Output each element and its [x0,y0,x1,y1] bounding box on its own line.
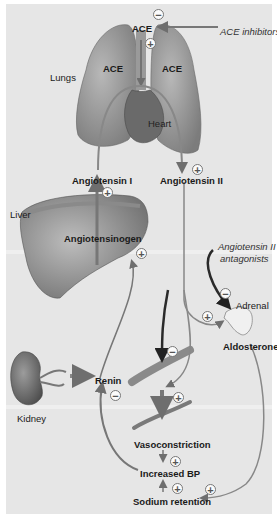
adrenal-label: Adrenal [236,301,269,311]
plus-sign-increased-bp-bottom: + [172,483,183,494]
plus-sign-renin-liver: + [136,248,147,259]
heart-label: Heart [148,119,171,129]
ace-label-left: ACE [103,64,123,74]
angiotensin-2-label: Angiotensin II [160,176,223,186]
minus-sign-renin: − [110,390,121,401]
renin-label: Renin [95,376,121,386]
kidney-label: Kidney [17,414,46,424]
plus-sign-ace: + [145,38,156,49]
minus-sign-vessel: − [167,346,178,357]
ace-inhibitors-label: ACE inhibitors [220,27,277,37]
minus-sign-ace-inhibitor: − [153,9,164,20]
plus-sign-vasoconstriction: + [173,392,184,403]
plus-sign-angiotensin-1: + [102,187,113,198]
plus-sign-adrenal: + [202,311,213,322]
liver-label: Liver [10,210,31,220]
angiotensinogen-label: Angiotensinogen [64,234,142,244]
ace-label-right: ACE [162,64,182,74]
plus-sign-increased-bp-top: + [170,456,181,467]
plus-sign-angiotensin-2: + [192,164,203,175]
at2-antagonists-label-line1: Angiotensin II [218,242,276,252]
sodium-retention-label: Sodium retention [133,497,211,507]
vasoconstriction-label: Vasoconstriction [134,440,211,450]
raas-diagram: Lungs Heart Liver Kidney Adrenal ACE ACE… [0,0,277,522]
lungs-label: Lungs [50,73,76,83]
aldosterone-label: Aldosterone [223,342,277,352]
at2-antagonists-label-line2: antagonists [220,254,269,264]
plus-sign-sodium-retention: + [205,484,216,495]
kidney-illustration [11,352,43,405]
ace-label-top: ACE [132,24,152,34]
increased-bp-label: Increased BP [140,469,200,479]
minus-sign-adrenal: − [220,288,231,299]
angiotensin-1-label: Angiotensin I [72,176,132,186]
